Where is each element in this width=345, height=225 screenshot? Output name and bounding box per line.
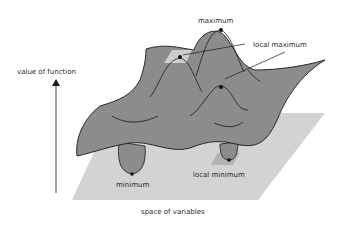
local-minimum-point	[227, 158, 231, 162]
minimum-point	[130, 172, 134, 176]
x-plane-label: space of variables	[141, 208, 205, 216]
local-maximum-point-1	[178, 55, 182, 59]
local-maximum-label: local maximum	[253, 41, 307, 49]
y-axis-label: value of function	[17, 68, 76, 76]
arrow-up-icon	[52, 79, 60, 86]
local-maximum-point-2	[219, 85, 223, 89]
maximum-point	[219, 28, 223, 32]
local-minimum-label: local minimum	[193, 171, 245, 179]
minimum-label: minimum	[116, 181, 149, 189]
maximum-label: maximum	[198, 17, 233, 25]
function-landscape-diagram: value of function space of variables max…	[0, 0, 345, 225]
